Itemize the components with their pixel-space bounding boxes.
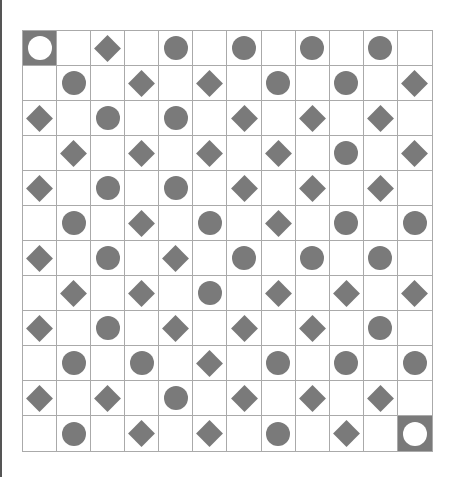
board-cell-r10-c6[interactable] (227, 381, 261, 416)
board-cell-r4-c4[interactable] (159, 171, 193, 206)
board-cell-r4-c2[interactable] (91, 171, 125, 206)
board-cell-r9-c10[interactable] (364, 346, 398, 381)
board-cell-r6-c7[interactable] (262, 241, 296, 276)
board-cell-r4-c9[interactable] (330, 171, 364, 206)
board-cell-r11-c9[interactable] (330, 416, 364, 451)
board-cell-r3-c4[interactable] (159, 136, 193, 171)
board-cell-r0-c9[interactable] (330, 31, 364, 66)
board-cell-r10-c2[interactable] (91, 381, 125, 416)
board-cell-r7-c6[interactable] (227, 276, 261, 311)
board-cell-r10-c9[interactable] (330, 381, 364, 416)
board-cell-r10-c3[interactable] (125, 381, 159, 416)
board-cell-r10-c1[interactable] (57, 381, 91, 416)
board-cell-r1-c10[interactable] (364, 66, 398, 101)
board-cell-r4-c1[interactable] (57, 171, 91, 206)
board-cell-r0-c3[interactable] (125, 31, 159, 66)
board-cell-r6-c6[interactable] (227, 241, 261, 276)
board-cell-r1-c1[interactable] (57, 66, 91, 101)
board-cell-r10-c5[interactable] (193, 381, 227, 416)
board-cell-r8-c8[interactable] (296, 311, 330, 346)
board-cell-r8-c11[interactable] (398, 311, 432, 346)
board-cell-r7-c4[interactable] (159, 276, 193, 311)
board-cell-r0-c5[interactable] (193, 31, 227, 66)
board-cell-r11-c1[interactable] (57, 416, 91, 451)
board-cell-r3-c6[interactable] (227, 136, 261, 171)
board-cell-r6-c11[interactable] (398, 241, 432, 276)
board-cell-r9-c8[interactable] (296, 346, 330, 381)
board-cell-r7-c1[interactable] (57, 276, 91, 311)
board-cell-r4-c6[interactable] (227, 171, 261, 206)
board-cell-r9-c7[interactable] (262, 346, 296, 381)
board-cell-r3-c8[interactable] (296, 136, 330, 171)
board-cell-r1-c0[interactable] (23, 66, 57, 101)
board-cell-r5-c0[interactable] (23, 206, 57, 241)
board-cell-r5-c7[interactable] (262, 206, 296, 241)
board-cell-r1-c4[interactable] (159, 66, 193, 101)
board-cell-r1-c5[interactable] (193, 66, 227, 101)
board-cell-r3-c3[interactable] (125, 136, 159, 171)
board-cell-r5-c3[interactable] (125, 206, 159, 241)
board-cell-r7-c8[interactable] (296, 276, 330, 311)
board-cell-r10-c8[interactable] (296, 381, 330, 416)
board-cell-r2-c10[interactable] (364, 101, 398, 136)
board-cell-r4-c11[interactable] (398, 171, 432, 206)
board-cell-r7-c3[interactable] (125, 276, 159, 311)
board-cell-r2-c7[interactable] (262, 101, 296, 136)
board-cell-r3-c2[interactable] (91, 136, 125, 171)
board-cell-r5-c6[interactable] (227, 206, 261, 241)
board-cell-r3-c10[interactable] (364, 136, 398, 171)
board-cell-r0-c1[interactable] (57, 31, 91, 66)
board-cell-r2-c1[interactable] (57, 101, 91, 136)
board-cell-r6-c0[interactable] (23, 241, 57, 276)
board-cell-r2-c8[interactable] (296, 101, 330, 136)
board-cell-r11-c4[interactable] (159, 416, 193, 451)
board-cell-r6-c1[interactable] (57, 241, 91, 276)
board-cell-r3-c0[interactable] (23, 136, 57, 171)
board-cell-r8-c2[interactable] (91, 311, 125, 346)
board-cell-r11-c8[interactable] (296, 416, 330, 451)
board-cell-r10-c7[interactable] (262, 381, 296, 416)
board-cell-r11-c10[interactable] (364, 416, 398, 451)
board-cell-r5-c10[interactable] (364, 206, 398, 241)
board-cell-r0-c8[interactable] (296, 31, 330, 66)
board-cell-r11-c2[interactable] (91, 416, 125, 451)
board-cell-r5-c1[interactable] (57, 206, 91, 241)
board-cell-r1-c8[interactable] (296, 66, 330, 101)
board-cell-r6-c5[interactable] (193, 241, 227, 276)
end-cell[interactable] (398, 416, 432, 451)
board-cell-r5-c9[interactable] (330, 206, 364, 241)
board-cell-r0-c2[interactable] (91, 31, 125, 66)
board-cell-r9-c0[interactable] (23, 346, 57, 381)
board-cell-r4-c10[interactable] (364, 171, 398, 206)
board-cell-r1-c7[interactable] (262, 66, 296, 101)
board-cell-r9-c3[interactable] (125, 346, 159, 381)
board-cell-r2-c6[interactable] (227, 101, 261, 136)
board-cell-r9-c9[interactable] (330, 346, 364, 381)
board-cell-r3-c11[interactable] (398, 136, 432, 171)
board-cell-r2-c5[interactable] (193, 101, 227, 136)
board-cell-r5-c8[interactable] (296, 206, 330, 241)
board-cell-r4-c7[interactable] (262, 171, 296, 206)
board-cell-r8-c6[interactable] (227, 311, 261, 346)
board-cell-r4-c3[interactable] (125, 171, 159, 206)
board-cell-r8-c7[interactable] (262, 311, 296, 346)
board-cell-r3-c7[interactable] (262, 136, 296, 171)
board-cell-r6-c9[interactable] (330, 241, 364, 276)
board-cell-r0-c4[interactable] (159, 31, 193, 66)
board-cell-r3-c1[interactable] (57, 136, 91, 171)
board-cell-r1-c3[interactable] (125, 66, 159, 101)
board-cell-r10-c10[interactable] (364, 381, 398, 416)
board-cell-r1-c11[interactable] (398, 66, 432, 101)
board-cell-r8-c1[interactable] (57, 311, 91, 346)
board-cell-r9-c1[interactable] (57, 346, 91, 381)
board-cell-r2-c3[interactable] (125, 101, 159, 136)
board-cell-r10-c11[interactable] (398, 381, 432, 416)
board-cell-r4-c5[interactable] (193, 171, 227, 206)
board-cell-r8-c0[interactable] (23, 311, 57, 346)
board-cell-r5-c5[interactable] (193, 206, 227, 241)
board-cell-r9-c6[interactable] (227, 346, 261, 381)
board-cell-r7-c5[interactable] (193, 276, 227, 311)
board-cell-r7-c9[interactable] (330, 276, 364, 311)
board-cell-r2-c4[interactable] (159, 101, 193, 136)
board-cell-r11-c0[interactable] (23, 416, 57, 451)
